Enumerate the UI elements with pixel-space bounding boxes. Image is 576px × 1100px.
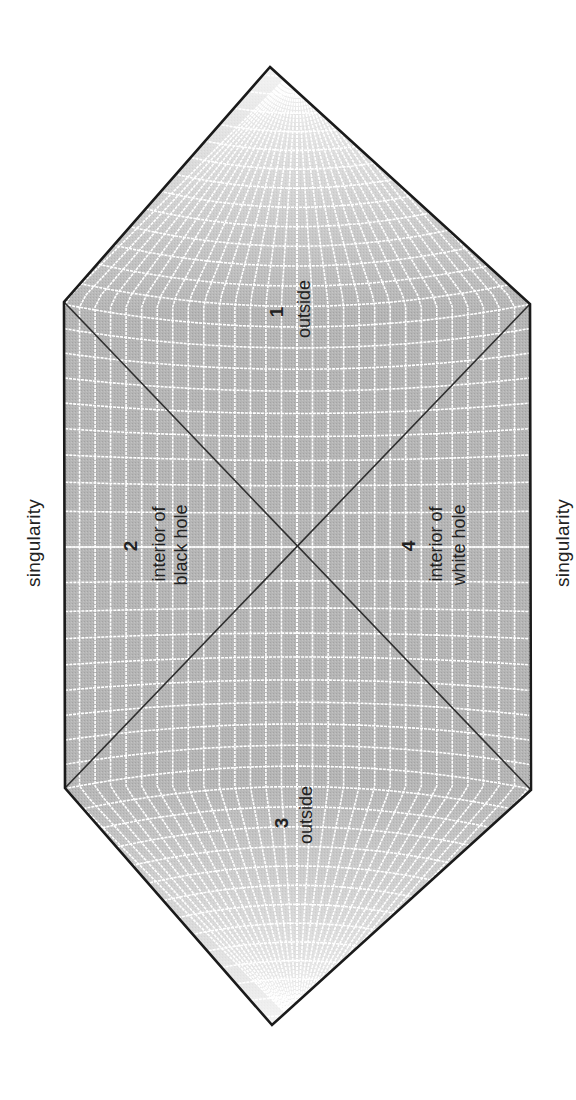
region-3-label: outside — [297, 786, 315, 844]
spacetime-region — [17, 0, 576, 1100]
penrose-diagram — [0, 0, 576, 1100]
region-4-label-line1: interior of — [427, 506, 445, 581]
region-4-number: 4 — [399, 541, 418, 552]
grid-line-horizontal — [17, 0, 576, 77]
grid-line-horizontal — [17, 1015, 576, 1100]
grid-line-horizontal — [17, 997, 576, 1100]
region-4-label-line2: white hole — [450, 504, 468, 585]
fade-top-corner — [64, 67, 530, 314]
region-1-label: outside — [295, 280, 313, 338]
singularity-label-right: singularity — [553, 499, 572, 587]
region-2-number: 2 — [121, 541, 140, 552]
region-1-number: 1 — [267, 307, 286, 318]
singularity-label-left: singularity — [24, 499, 43, 587]
grid-line-horizontal — [17, 0, 576, 95]
region-2-label-line2: black hole — [172, 504, 190, 585]
region-3-number: 3 — [272, 818, 291, 829]
region-2-label-line1: interior of — [150, 506, 168, 581]
